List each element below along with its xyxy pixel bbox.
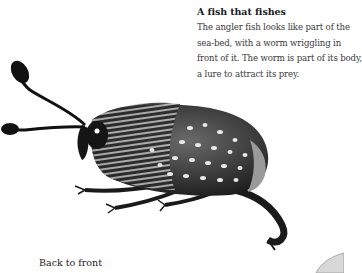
caption-line: sea-bed, with a worm wriggling in [197, 36, 347, 52]
caption-title: A fish that fishes [197, 6, 347, 17]
beetle-illustration [0, 55, 310, 255]
antenna-icon [1, 58, 85, 135]
legs [75, 185, 284, 250]
section-heading: Back to front [39, 257, 102, 268]
beetle-body [91, 103, 268, 196]
partial-illustration-fragment [314, 251, 344, 273]
caption-line: The angler fish looks like part of the [197, 20, 347, 36]
